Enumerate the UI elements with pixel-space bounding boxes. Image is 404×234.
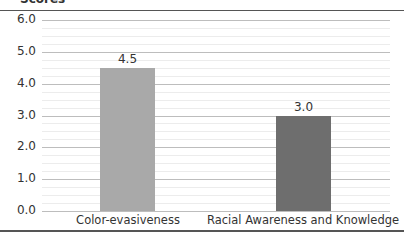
minor-gridline (42, 171, 390, 172)
minor-gridline (42, 68, 390, 69)
y-axis-title: Scores (20, 0, 65, 6)
y-tick-label: 2.0 (0, 139, 36, 153)
y-tick-label: 3.0 (0, 108, 36, 122)
major-gridline (42, 20, 390, 21)
major-gridline (42, 147, 390, 148)
y-tick-label: 6.0 (0, 12, 36, 26)
bar-color-evasiveness (100, 68, 155, 211)
minor-gridline (42, 76, 390, 77)
minor-gridline (42, 187, 390, 188)
minor-gridline (42, 131, 390, 132)
top-rule (0, 10, 404, 11)
major-gridline (42, 84, 390, 85)
y-tick-label: 5.0 (0, 44, 36, 58)
minor-gridline (42, 195, 390, 196)
x-category-label: Racial Awareness and Knowledge (203, 213, 403, 227)
major-gridline (42, 179, 390, 180)
minor-gridline (42, 108, 390, 109)
minor-gridline (42, 123, 390, 124)
minor-gridline (42, 203, 390, 204)
minor-gridline (42, 44, 390, 45)
minor-gridline (42, 155, 390, 156)
major-gridline (42, 52, 390, 53)
bottom-rule (0, 230, 404, 232)
minor-gridline (42, 92, 390, 93)
bar-racial-awareness-and-knowledge (276, 116, 331, 211)
major-gridline (42, 116, 390, 117)
bar-chart: Scores 0.01.02.03.04.05.06.0 4.5Color-ev… (0, 0, 404, 234)
y-tick-label: 1.0 (0, 171, 36, 185)
x-category-label: Color-evasiveness (28, 213, 228, 227)
y-tick-label: 4.0 (0, 76, 36, 90)
bar-value-label: 4.5 (100, 52, 155, 66)
major-gridline (42, 211, 390, 212)
minor-gridline (42, 60, 390, 61)
minor-gridline (42, 139, 390, 140)
minor-gridline (42, 28, 390, 29)
bar-value-label: 3.0 (276, 100, 331, 114)
minor-gridline (42, 100, 390, 101)
minor-gridline (42, 163, 390, 164)
minor-gridline (42, 36, 390, 37)
